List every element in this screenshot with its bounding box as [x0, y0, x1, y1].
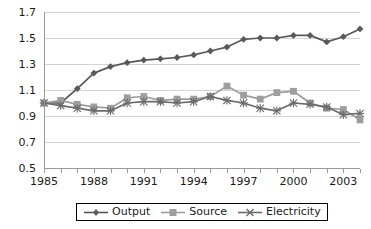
series-lines: [44, 12, 360, 168]
y-axis-tick-label: 0.7: [0, 137, 36, 148]
x-axis-tick-label: 1991: [124, 176, 164, 188]
series-output: [41, 26, 364, 107]
x-axis-tick: [244, 169, 245, 173]
legend-marker-square-icon: [160, 207, 186, 218]
x-axis-tick: [227, 169, 228, 173]
chart-legend: Output Source Electricity: [76, 203, 328, 221]
x-axis-tick-label: 1985: [24, 176, 64, 188]
line-chart: 1.71.51.31.10.90.70.5 198519881991199419…: [0, 0, 371, 229]
x-axis-tick: [177, 169, 178, 173]
x-axis-tick: [360, 169, 361, 173]
x-axis-tick-label: 2003: [323, 176, 363, 188]
legend-marker-cross-icon: [237, 207, 263, 218]
y-axis-tick-label: 0.5: [0, 163, 36, 174]
x-axis-tick-label: 1988: [74, 176, 114, 188]
legend-item-source[interactable]: Source: [160, 206, 227, 218]
x-axis-tick: [127, 169, 128, 173]
x-axis-tick: [144, 169, 145, 173]
x-axis-tick: [77, 169, 78, 173]
y-axis-line: [44, 12, 45, 169]
series-source: [41, 83, 364, 124]
x-axis-line: [44, 168, 360, 169]
legend-label-source: Source: [189, 206, 227, 218]
legend-item-output[interactable]: Output: [83, 206, 150, 218]
legend-marker-diamond-icon: [83, 207, 109, 218]
x-axis-tick: [210, 169, 211, 173]
y-axis-tick-label: 1.7: [0, 7, 36, 18]
x-axis-tick: [310, 169, 311, 173]
x-axis-tick: [44, 169, 45, 173]
x-axis-tick: [343, 169, 344, 173]
x-axis-tick: [111, 169, 112, 173]
x-axis-tick-label: 2000: [273, 176, 313, 188]
x-axis-tick: [160, 169, 161, 173]
x-axis-tick-label: 1997: [224, 176, 264, 188]
legend-label-electricity: Electricity: [266, 206, 321, 218]
x-axis-tick: [194, 169, 195, 173]
y-axis-tick-label: 1.1: [0, 85, 36, 96]
x-axis-tick-label: 1994: [174, 176, 214, 188]
x-axis-tick: [327, 169, 328, 173]
x-axis-tick: [260, 169, 261, 173]
x-axis-tick: [293, 169, 294, 173]
y-axis-tick-label: 1.5: [0, 33, 36, 44]
legend-label-output: Output: [112, 206, 150, 218]
x-axis-tick: [61, 169, 62, 173]
legend-item-electricity[interactable]: Electricity: [237, 206, 321, 218]
y-axis-tick-label: 1.3: [0, 59, 36, 70]
x-axis-tick: [277, 169, 278, 173]
plot-area: [44, 12, 360, 168]
y-axis-tick-label: 0.9: [0, 111, 36, 122]
x-axis-tick: [94, 169, 95, 173]
